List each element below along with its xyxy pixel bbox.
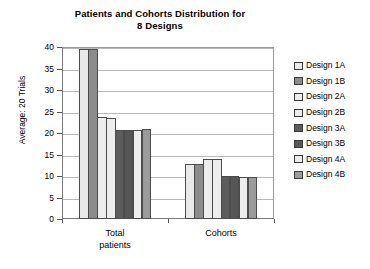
legend-swatch-icon [294,140,303,148]
legend-item[interactable]: Design 4B [294,167,370,183]
legend-item-label: Design 1B [306,77,345,86]
legend-swatch-icon [294,171,303,179]
legend-item[interactable]: Design 3B [294,136,370,152]
y-axis-tick-label: 35 [12,65,54,74]
legend-item[interactable]: Design 2B [294,105,370,121]
legend-item[interactable]: Design 3A [294,120,370,136]
x-axis-tick [168,219,169,223]
x-axis-category-label: Totalpatients [60,228,170,251]
legend-item[interactable]: Design 1B [294,74,370,90]
x-axis-tick [62,219,63,223]
legend-item-label: Design 4B [306,170,345,179]
legend-item[interactable]: Design 1A [294,58,370,74]
x-axis-category-label: Cohorts [166,228,276,240]
legend-swatch-icon [294,124,303,132]
chart-title-line-1: Patients and Cohorts Distribution for [40,8,280,20]
y-axis-tick-label: 5 [12,194,54,203]
y-axis-tick-label: 20 [12,129,54,138]
legend-item-label: Design 4A [306,155,345,164]
chart-legend: Design 1ADesign 1BDesign 2ADesign 2BDesi… [294,58,370,183]
legend-item-label: Design 3B [306,139,345,148]
x-axis-category-label-line: patients [60,240,170,252]
y-axis-tick-label: 40 [12,43,54,52]
legend-item-label: Design 2B [306,108,345,117]
legend-item[interactable]: Design 2A [294,89,370,105]
legend-item-label: Design 1A [306,61,345,70]
bar [248,177,257,219]
y-axis-tick-label: 10 [12,172,54,181]
bars-layer [62,47,274,219]
chart-title: Patients and Cohorts Distribution for 8 … [40,8,280,32]
legend-item-label: Design 3A [306,124,345,133]
y-axis-tick-label: 0 [12,215,54,224]
bar-chart: Patients and Cohorts Distribution for 8 … [0,0,370,269]
y-axis-tick-label: 15 [12,151,54,160]
legend-swatch-icon [294,93,303,101]
legend-item[interactable]: Design 4A [294,152,370,168]
y-axis-tick-label: 25 [12,108,54,117]
y-axis-tick-label: 30 [12,86,54,95]
legend-swatch-icon [294,77,303,85]
chart-title-line-2: 8 Designs [40,20,280,32]
legend-swatch-icon [294,109,303,117]
legend-swatch-icon [294,62,303,70]
bar [142,129,151,219]
x-axis-category-label-line: Cohorts [166,228,276,240]
legend-swatch-icon [294,155,303,163]
x-axis-category-label-line: Total [60,228,170,240]
x-axis-tick [274,219,275,223]
legend-item-label: Design 2A [306,92,345,101]
